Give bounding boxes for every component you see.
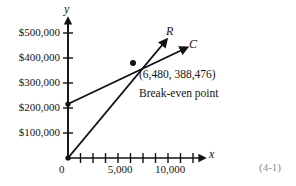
break-even-caption: Break-even point: [139, 88, 219, 100]
break-even-figure: $500,000 $400,000 $300,000 $200,000 $100…: [0, 0, 296, 186]
break-even-point-dot: [130, 60, 136, 66]
y-tick-label-400000: $400,000: [2, 52, 60, 63]
y-tick-label-300000: $300,000: [2, 77, 60, 88]
origin-label: 0: [59, 164, 65, 175]
x-axis-label: x: [209, 148, 214, 160]
series-label-r: R: [166, 25, 173, 37]
origin-point-dot: [65, 155, 70, 160]
y-tick-label-200000: $200,000: [2, 102, 60, 113]
break-even-coordinate-label: (6,480, 388,476): [139, 69, 216, 81]
x-tick-label-10000: 10,000: [148, 164, 192, 175]
cost-intercept-dot: [65, 101, 70, 106]
x-tick-label-5000: 5,000: [100, 164, 140, 175]
y-tick-label-100000: $100,000: [2, 127, 60, 138]
series-line-r: [68, 44, 163, 158]
equation-reference: (4-1): [259, 162, 281, 173]
y-axis-label: y: [64, 3, 69, 15]
y-tick-label-500000: $500,000: [2, 27, 60, 38]
series-label-c: C: [189, 38, 197, 50]
